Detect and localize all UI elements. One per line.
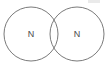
left-circle-label-n: N — [28, 29, 35, 39]
diagram-canvas: N N — [0, 0, 108, 68]
right-circle-label-n: N — [74, 29, 81, 39]
two-circle-venn-diagram: N N — [0, 0, 108, 68]
